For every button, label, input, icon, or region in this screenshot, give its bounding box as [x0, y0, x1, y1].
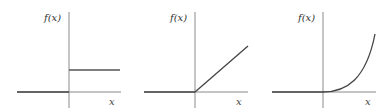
relu-plot: f(x) x — [128, 0, 258, 112]
y-axis-label: f(x) — [44, 12, 61, 23]
x-axis-label: x — [236, 96, 242, 107]
x-axis-label: x — [365, 96, 371, 107]
y-axis-label: f(x) — [298, 12, 315, 23]
x-axis-label: x — [109, 96, 115, 107]
exponential-plot: f(x) x — [258, 0, 388, 112]
curve-linear — [195, 46, 248, 92]
y-axis-label: f(x) — [170, 12, 187, 23]
step-function-plot: f(x) x — [0, 0, 130, 112]
curve-exponential — [323, 34, 375, 92]
